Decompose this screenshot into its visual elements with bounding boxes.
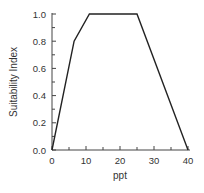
suitability-chart: 0.00.20.40.60.81.0 010203040 ppt Suitabi…: [0, 0, 204, 193]
x-ticks: 010203040: [49, 146, 193, 166]
x-tick-label: 30: [149, 155, 160, 166]
y-tick-label: 0.2: [33, 117, 46, 128]
y-tick-label: 0.6: [33, 63, 46, 74]
y-tick-label: 0.8: [33, 36, 46, 47]
suitability-line: [52, 14, 188, 150]
x-tick-label: 40: [183, 155, 194, 166]
y-tick-label: 1.0: [33, 9, 46, 20]
y-ticks: 0.00.20.40.60.81.0: [33, 9, 56, 156]
x-tick-label: 0: [49, 155, 54, 166]
x-tick-label: 10: [81, 155, 92, 166]
y-tick-label: 0.0: [33, 145, 46, 156]
y-axis-label: Suitability Index: [8, 47, 19, 117]
x-tick-label: 20: [115, 155, 126, 166]
y-tick-label: 0.4: [33, 90, 46, 101]
x-axis-label: ppt: [113, 170, 127, 181]
